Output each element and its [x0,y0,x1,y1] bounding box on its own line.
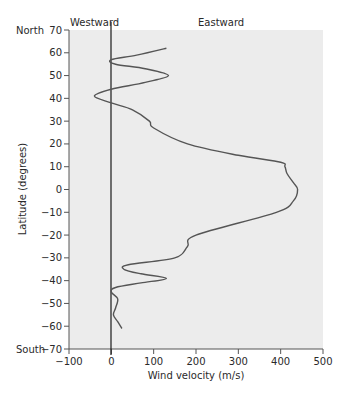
y-tick-label: 30 [49,116,62,127]
y-tick-label: −40 [41,275,62,286]
y-tick-label: 50 [49,70,62,81]
y-axis-title: Latitude (degrees) [17,143,28,235]
x-axis-title: Wind velocity (m/s) [148,370,245,381]
plot-area [69,30,323,349]
y-tick-label: −60 [41,321,62,332]
y-tick-label: 0 [56,184,62,195]
y-tick-label: −30 [41,252,62,263]
wind-velocity-chart: 706050403020100−10−20−30−40−50−60−70−100… [0,0,351,393]
y-tick-label: 60 [49,47,62,58]
y-tick-label: 10 [49,161,62,172]
x-tick-label: 300 [229,356,248,367]
x-tick-label: 500 [313,356,332,367]
x-tick-label: 400 [271,356,290,367]
westward-label: Westward [70,17,119,28]
y-tick-label: −20 [41,230,62,241]
y-tick-label: 70 [49,25,62,36]
north-label: North [16,25,44,36]
x-tick-label: −100 [55,356,82,367]
y-tick-label: 40 [49,93,62,104]
y-tick-label: 20 [49,138,62,149]
south-label: South [16,344,45,355]
y-tick-label: −10 [41,207,62,218]
y-tick-label: −50 [41,298,62,309]
eastward-label: Eastward [198,17,244,28]
x-tick-label: 0 [108,356,114,367]
x-tick-label: 100 [144,356,163,367]
x-tick-label: 200 [186,356,205,367]
